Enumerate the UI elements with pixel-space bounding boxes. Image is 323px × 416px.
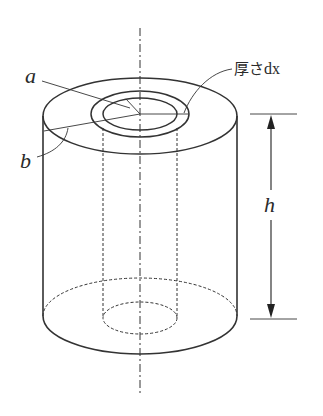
label-h: h	[264, 192, 275, 217]
label-b: b	[20, 148, 31, 173]
label-thickness: 厚さdx	[234, 60, 280, 78]
arrow-up-icon	[267, 115, 275, 129]
leader-dx	[184, 69, 232, 113]
hollow-cylinder-diagram: a b h 厚さdx	[0, 0, 323, 416]
label-thickness-var: dx	[264, 60, 280, 77]
bottom-back-arc	[43, 278, 237, 316]
label-a: a	[25, 63, 36, 88]
label-thickness-prefix: 厚さ	[234, 60, 264, 78]
radius-a-line	[126, 99, 140, 114]
arrow-down-icon	[267, 304, 275, 318]
